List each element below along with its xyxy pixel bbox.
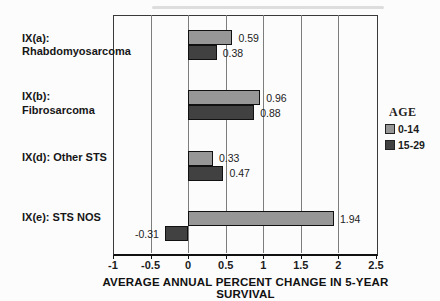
- x-tick-label: -1: [93, 259, 133, 271]
- category-label: IX(a):Rhabdomyosarcoma: [22, 32, 114, 59]
- bar-15-29-2: [188, 166, 223, 181]
- x-tick-label: 0.5: [206, 259, 246, 271]
- chart-figure: 0.590.960.331.940.380.880.47-0.31 IX(a):…: [0, 0, 440, 301]
- legend-title: AGE: [389, 105, 425, 120]
- legend-items: 0-1415-29: [385, 123, 425, 151]
- scan-artifact: [152, 6, 384, 9]
- value-label: 0.88: [260, 107, 280, 119]
- x-axis-title: AVERAGE ANNUAL PERCENT CHANGE IN 5-YEAR …: [98, 276, 393, 300]
- bar-0-14-3: [188, 211, 334, 226]
- category-label: IX(b): Fibrosarcoma: [22, 90, 114, 117]
- x-tick-label: -0.5: [131, 259, 171, 271]
- value-label: 0.33: [219, 152, 239, 164]
- legend: AGE 0-1415-29: [385, 105, 425, 155]
- category-label: IX(d): Other STS: [22, 151, 114, 165]
- legend-item: 15-29: [385, 139, 425, 151]
- x-tick-label: 2: [318, 259, 358, 271]
- legend-item-label: 0-14: [398, 123, 419, 135]
- bar-0-14-0: [188, 30, 232, 45]
- bar-15-29-0: [188, 45, 217, 60]
- x-tick-label: 1: [243, 259, 283, 271]
- category-label: IX(e): STS NOS: [22, 211, 114, 225]
- value-label: 1.94: [340, 213, 360, 225]
- bar-0-14-2: [188, 151, 213, 166]
- value-label: 0.59: [238, 32, 258, 44]
- gridline: [151, 15, 152, 253]
- bar-15-29-1: [188, 105, 254, 120]
- value-label: 0.47: [229, 167, 249, 179]
- x-tick-label: 1.5: [281, 259, 321, 271]
- legend-item-label: 15-29: [398, 139, 425, 151]
- value-label: 0.96: [266, 92, 286, 104]
- legend-swatch-0-14: [385, 124, 395, 134]
- value-label: 0.38: [223, 47, 243, 59]
- legend-item: 0-14: [385, 123, 425, 135]
- bar-0-14-1: [188, 90, 260, 105]
- x-tick-label: 2.5: [356, 259, 396, 271]
- legend-swatch-15-29: [385, 140, 395, 150]
- x-tick-label: 0: [168, 259, 208, 271]
- value-label: -0.31: [135, 228, 159, 240]
- bar-15-29-3: [165, 226, 188, 241]
